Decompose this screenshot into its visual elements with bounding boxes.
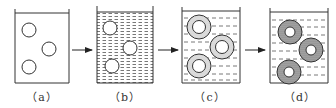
panel-label-b: （b） [105,88,145,104]
particle-circle [22,60,36,74]
particle-ring-thick [278,20,302,44]
particle-ring [187,15,211,39]
panel-label-c: （c） [190,88,230,104]
particle-ring [187,54,211,78]
particle-ring [210,35,234,59]
particle-ring-thick [277,60,301,84]
particle-circle [22,23,36,37]
panel-label-d: （d） [280,88,320,104]
particle-circle [42,42,56,56]
panel-a [15,9,69,83]
particle-circle [123,41,137,55]
particle-ring-thick [299,38,323,62]
panel-b [97,6,153,83]
container-a [15,9,69,83]
particle-circle [105,59,119,73]
panel-d [270,8,328,84]
panel-c [182,7,240,83]
panel-label-a: （a） [22,88,62,104]
particle-circle [103,21,117,35]
